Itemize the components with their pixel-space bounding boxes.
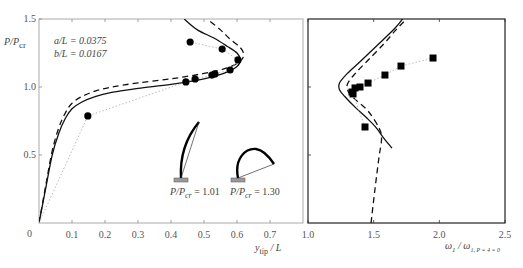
x-tick-label: 1.5 [367,229,380,240]
inset-2-label: P/Pcr = 1.30 [229,186,280,200]
x-tick-label: 2.0 [433,229,446,240]
clamp-icon [231,178,245,182]
data-point-circle [219,45,226,52]
data-point-circle [211,70,218,77]
y-tick-label: 1.5 [24,13,37,24]
left-y-axis-label: P/Pcr [3,36,26,50]
inset-beam-shape-1: P/Pcr = 1.01 [169,122,220,200]
figure: 0.10.20.30.40.50.60.7 0.51.01.5 P/Pcr a/… [0,0,523,268]
right-x-ticks: 1.01.52.02.5 [302,19,512,240]
origin-label: 0 [27,228,32,239]
inset-beam-shape-2: P/Pcr = 1.30 [229,149,280,200]
param-a-label: a/L = 0.0375 [54,35,106,46]
y-tick-label: 0.5 [24,149,37,160]
right-plot-frame [308,19,505,223]
x-tick-label: 1.0 [302,229,315,240]
right-series [339,19,437,223]
inset-1-label: P/Pcr = 1.01 [169,186,220,200]
x-tick-label: 0.7 [264,229,277,240]
data-point-circle [191,75,198,82]
x-tick-label: 0.5 [198,229,211,240]
data-point-square [381,72,388,79]
x-tick-label: 0.6 [231,229,244,240]
data-point-circle [234,56,241,63]
param-b-label: b/L = 0.0167 [54,48,107,59]
x-tick-label: 0.4 [165,229,178,240]
clamp-icon [174,178,188,182]
y-tick-label: 1.0 [24,81,37,92]
theory-dashed-curve [347,19,407,223]
data-point-circle [187,38,194,45]
x-tick-label: 0.1 [66,229,79,240]
data-point-square [397,63,404,70]
data-point-circle [226,66,233,73]
experiment-connector [352,58,433,127]
data-point-square [357,84,364,91]
data-point-circle [182,78,189,85]
data-point-square [365,80,372,87]
left-panel: 0.10.20.30.40.50.60.7 0.51.01.5 P/Pcr a/… [3,13,303,256]
right-panel: 1.01.52.02.5 ω1 / ω1, P = 4 = 0 [302,19,512,254]
right-x-axis-label: ω1 / ω1, P = 4 = 0 [445,240,500,254]
data-point-circle [84,112,91,119]
data-point-square [430,55,437,62]
x-tick-label: 0.3 [132,229,145,240]
left-x-axis-label: ytip / L [254,242,282,256]
data-point-square [361,123,368,130]
x-tick-label: 0.2 [99,229,112,240]
x-tick-label: 2.5 [499,229,512,240]
